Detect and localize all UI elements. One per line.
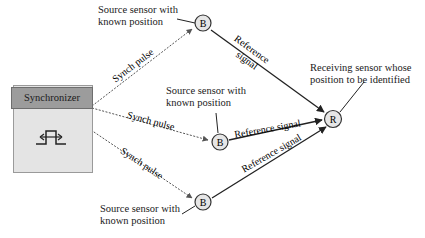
source-node-2: B (212, 134, 228, 150)
synch-pulse-label-2: Synch pulse (126, 109, 176, 132)
svg-text:B: B (200, 18, 207, 29)
synch-pulse-label-1: Synch pulse (110, 46, 156, 84)
source-node-1: B (195, 15, 211, 31)
receiver-node: R (325, 111, 342, 128)
svg-text:R: R (330, 114, 337, 125)
receiver-caption: Receiving sensor whose position to be id… (310, 62, 411, 86)
synch-pulse-label-3: Synch pulse (119, 145, 166, 182)
source-node-3: B (195, 194, 211, 210)
pulse-waveform-icon (32, 126, 72, 150)
reference-signal-label-3: Reference signal (240, 131, 304, 174)
source-caption-1: Source sensor with known position (98, 4, 178, 28)
svg-text:B: B (200, 197, 207, 208)
synchronizer-title: Synchronizer (11, 87, 93, 109)
source-caption-3: Source sensor with known position (100, 203, 180, 227)
svg-text:B: B (217, 137, 224, 148)
source-caption-2: Source sensor with known position (166, 85, 246, 109)
